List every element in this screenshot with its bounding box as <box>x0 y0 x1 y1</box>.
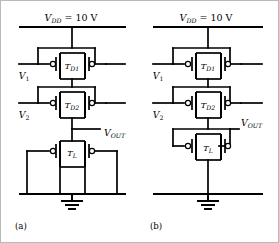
td1-gate-bubble-right-a <box>89 61 94 66</box>
caption-b: (b) <box>150 221 162 231</box>
transistor-td1-a: TD1 <box>38 48 125 79</box>
transistor-label-td1-a: TD1 <box>65 61 79 72</box>
input-label-v1-a: V1 <box>19 70 30 82</box>
transistor-label-td2-a: TD2 <box>65 100 79 111</box>
caption-a: (a) <box>15 221 27 231</box>
transistor-label-tl-b: TL <box>203 143 213 154</box>
output-label-vout-a: VOUT <box>104 127 126 139</box>
td2-gate-bubble-right-b <box>225 100 230 105</box>
supply-label-a: VDD = 10 V <box>45 12 98 24</box>
circuit-diagram: VDD = 10 V <box>1 1 279 243</box>
circuit-b: VDD = 10 V TD1 <box>150 12 263 231</box>
tl-gate-bubble-left-a <box>50 148 55 153</box>
input-label-v2-b: V2 <box>153 109 164 121</box>
circuit-a: VDD = 10 V <box>15 12 126 231</box>
supply-label-b: VDD = 10 V <box>180 12 233 24</box>
transistor-tl-b: VOUT TL <box>173 117 263 194</box>
tl-gate-bubble-left-b <box>185 143 190 148</box>
transistor-td2-a: TD2 <box>38 87 125 118</box>
transistor-td1-b: TD1 <box>173 48 262 79</box>
figure-frame: VDD = 10 V <box>0 0 279 243</box>
td2-gate-bubble-left-b <box>185 100 190 105</box>
transistor-label-td1-b: TD1 <box>201 61 215 72</box>
td1-gate-bubble-left-a <box>50 61 55 66</box>
td1-gate-bubble-left-b <box>185 61 190 66</box>
input-label-v1-b: V1 <box>153 70 164 82</box>
tl-gate-bubble-right-b <box>225 143 230 148</box>
transistor-td2-b: TD2 <box>173 87 262 118</box>
input-label-v2-a: V2 <box>19 109 30 121</box>
td1-gate-bubble-right-b <box>225 61 230 66</box>
ground-symbol-b <box>197 194 219 209</box>
transistor-label-tl-a: TL <box>67 148 77 159</box>
transistor-label-td2-b: TD2 <box>201 100 215 111</box>
ground-symbol-a <box>61 194 83 209</box>
transistor-tl-a: TL <box>27 129 117 194</box>
td2-gate-bubble-right-a <box>89 100 94 105</box>
tl-gate-bubble-right-a <box>89 148 94 153</box>
output-label-vout-b: VOUT <box>241 117 263 129</box>
td2-gate-bubble-left-a <box>50 100 55 105</box>
